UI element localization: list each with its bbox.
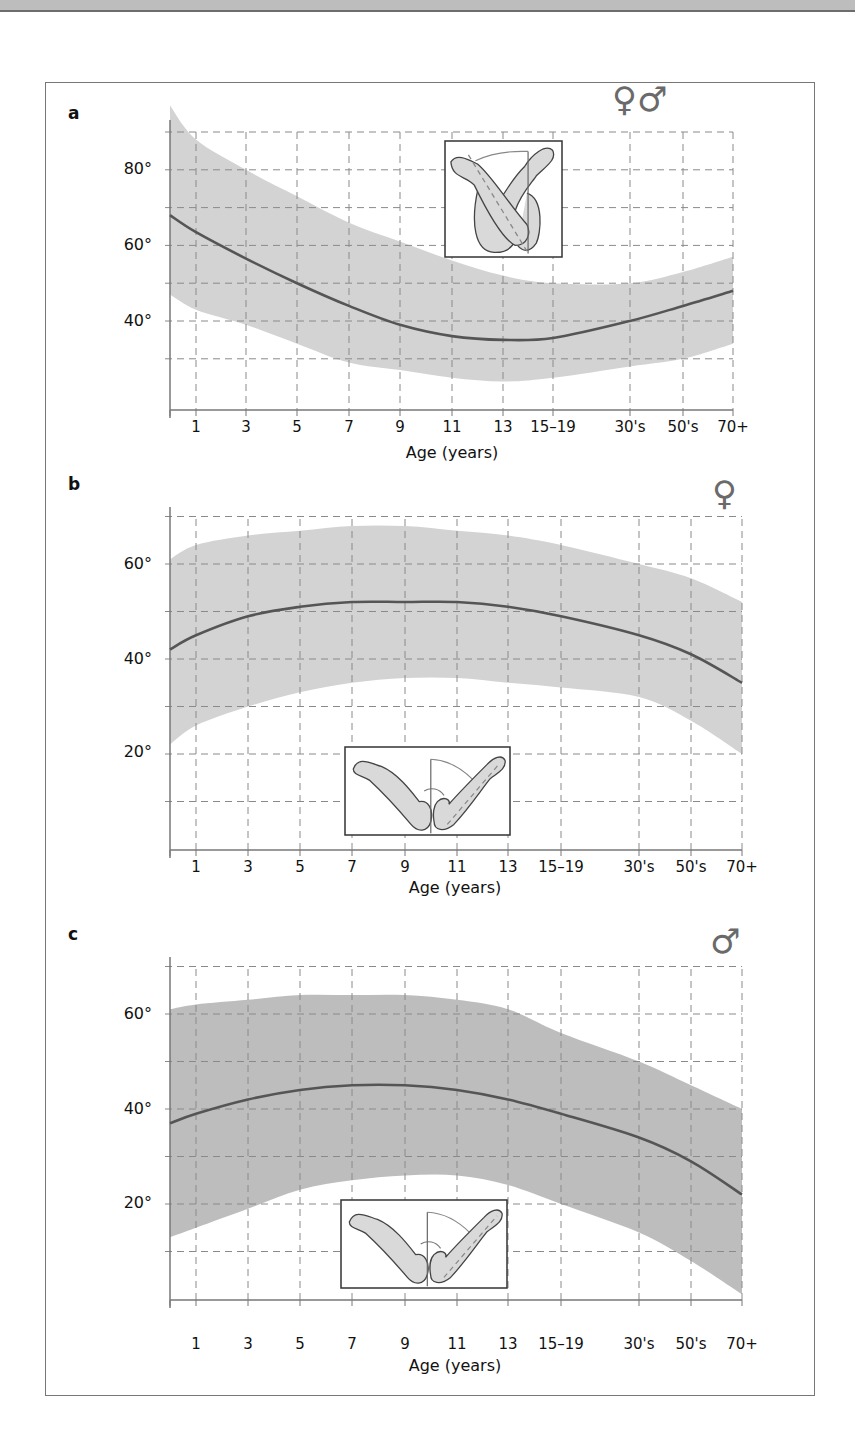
x-tick-label: 1 <box>191 1335 201 1353</box>
y-tick-label: 60° <box>102 1004 152 1023</box>
x-tick-label: 3 <box>243 1335 253 1353</box>
x-axis-label: Age (years) <box>409 1356 502 1375</box>
x-tick-label: 70+ <box>726 1335 758 1353</box>
x-tick-label: 9 <box>400 1335 410 1353</box>
x-tick-label: 7 <box>347 1335 357 1353</box>
inset-illustration <box>341 1200 507 1288</box>
panel-c: c ♂ 60° 40° 20° 13579111315–1930's50's70… <box>0 0 855 1449</box>
x-tick-label: 15–19 <box>538 1335 584 1353</box>
y-tick-label: 20° <box>102 1193 152 1212</box>
x-tick-label: 50's <box>675 1335 706 1353</box>
chart-panel-c <box>0 0 855 1449</box>
x-tick-label: 11 <box>447 1335 466 1353</box>
x-tick-label: 5 <box>295 1335 305 1353</box>
x-tick-label: 30's <box>623 1335 654 1353</box>
x-tick-label: 13 <box>498 1335 517 1353</box>
y-tick-label: 40° <box>102 1099 152 1118</box>
